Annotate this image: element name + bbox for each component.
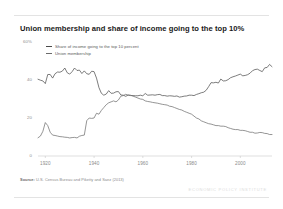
source-note: Source: U.S. Census Bureau and Piketty a… [20,177,124,182]
y-axis-tick-label: 20 [14,115,32,120]
bottom-divider [14,197,269,198]
axis-layer [38,156,272,158]
x-axis-tick-label: 1920 [30,161,60,166]
source-text: U.S. Census Bureau and Piketty and Saez … [36,177,124,182]
x-axis-tick-label: 1980 [177,161,207,166]
y-axis-tick-label: 40 [14,77,32,82]
series-layer [38,64,272,138]
source-label: Source: [20,177,35,182]
chart-card: Union membership and share of income goi… [0,0,283,209]
x-axis-tick-label: 1940 [79,161,109,166]
y-axis-tick-label: 0 [14,153,32,158]
x-axis-tick-label: 1960 [128,161,158,166]
x-axis-tick-label: 2000 [225,161,255,166]
watermark-text: ECONOMIC POLICY INSTITUTE [189,187,267,192]
y-axis-tick-label: 60% [14,39,32,44]
